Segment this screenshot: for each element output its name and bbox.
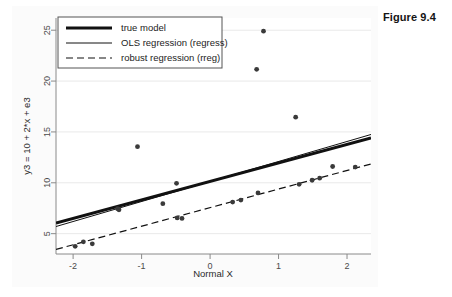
data-point	[175, 215, 180, 220]
data-point	[90, 241, 95, 246]
data-point	[293, 115, 298, 120]
legend-label: OLS regression (regress)	[121, 37, 228, 48]
data-point	[174, 181, 179, 186]
data-point	[180, 216, 185, 221]
figure-container: Figure 9.4 -2-1012 510152025 Normal X y3…	[0, 0, 452, 297]
y-axis-title: y3 = 10 + 2*x + e3	[21, 97, 32, 174]
data-point	[256, 191, 261, 196]
y-tick-label: 10	[42, 178, 52, 188]
data-point	[310, 178, 315, 183]
data-point	[117, 207, 122, 212]
data-point	[330, 164, 335, 169]
data-point	[254, 67, 259, 72]
data-point	[160, 201, 165, 206]
data-point	[353, 165, 358, 170]
y-tick-label: 5	[42, 231, 52, 236]
x-tick-label: 1	[276, 261, 281, 271]
y-tick-label: 25	[42, 25, 52, 35]
x-tick-label: -1	[138, 261, 146, 271]
data-point	[230, 200, 235, 205]
data-point	[297, 182, 302, 187]
scatter-plot: -2-1012 510152025 Normal X y3 = 10 + 2*x…	[0, 0, 452, 297]
x-tick-label: 2	[345, 261, 350, 271]
data-point	[81, 239, 86, 244]
legend-label: true model	[121, 22, 166, 33]
legend-label: robust regression (rreg)	[121, 52, 220, 63]
y-tick-label: 15	[42, 127, 52, 137]
x-tick-label: -2	[69, 261, 77, 271]
y-tick-label: 20	[42, 76, 52, 86]
data-point	[317, 176, 322, 181]
y-axis-ticks: 510152025	[42, 25, 56, 236]
data-point	[261, 29, 266, 34]
data-point	[135, 144, 140, 149]
chart-legend: true modelOLS regression (regress)robust…	[58, 17, 228, 68]
x-axis-title: Normal X	[193, 268, 233, 279]
data-point	[238, 198, 243, 203]
data-point	[73, 244, 78, 249]
